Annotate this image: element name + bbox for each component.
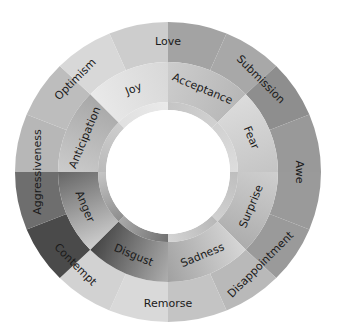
center-hole-circle	[106, 110, 230, 234]
dyad-label-aggressiveness: Aggressiveness	[31, 129, 44, 215]
dyad-label-remorse: Remorse	[144, 297, 193, 310]
dyad-label-love: Love	[155, 35, 181, 48]
dyad-label-awe: Awe	[293, 161, 306, 184]
center-hole	[106, 110, 230, 234]
emotion-wheel: LoveSubmissionAweDisappointmentRemorseCo…	[0, 0, 340, 330]
